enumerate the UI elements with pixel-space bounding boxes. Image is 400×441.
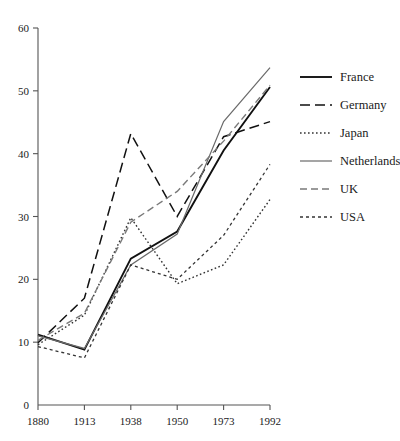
series-line-germany — [38, 122, 270, 343]
legend-label-netherlands: Netherlands — [340, 154, 400, 169]
legend-swatch-usa — [300, 211, 332, 223]
legend-label-usa: USA — [340, 210, 365, 225]
series-line-uk — [38, 85, 270, 340]
x-tick-label: 1950 — [166, 415, 189, 427]
legend-item-germany: Germany — [300, 92, 395, 118]
legend-item-netherlands: Netherlands — [300, 148, 395, 174]
y-tick-label: 50 — [18, 85, 30, 97]
y-tick-label: 0 — [24, 399, 30, 411]
x-axis: 188019131938195019731992 — [27, 405, 281, 427]
series-lines — [38, 68, 270, 358]
legend-label-germany: Germany — [340, 98, 387, 113]
legend-item-usa: USA — [300, 204, 395, 230]
x-tick-label: 1973 — [213, 415, 236, 427]
legend-swatch-uk — [300, 183, 332, 195]
y-tick-label: 20 — [18, 273, 30, 285]
series-line-netherlands — [38, 68, 270, 349]
legend-label-france: France — [340, 70, 374, 85]
legend: France Germany Japan Netherlands UK USA — [300, 64, 395, 232]
legend-label-uk: UK — [340, 182, 358, 197]
y-tick-label: 60 — [18, 22, 30, 34]
x-tick-label: 1992 — [259, 415, 281, 427]
legend-swatch-france — [300, 71, 332, 83]
legend-item-uk: UK — [300, 176, 395, 202]
x-tick-label: 1880 — [27, 415, 50, 427]
x-tick-label: 1913 — [73, 415, 96, 427]
legend-label-japan: Japan — [340, 126, 368, 141]
series-line-usa — [38, 164, 270, 358]
y-axis: 0102030405060 — [18, 22, 38, 411]
legend-swatch-japan — [300, 127, 332, 139]
legend-swatch-netherlands — [300, 155, 332, 167]
y-tick-label: 10 — [18, 336, 30, 348]
legend-item-france: France — [300, 64, 395, 90]
y-tick-label: 30 — [18, 211, 30, 223]
legend-item-japan: Japan — [300, 120, 395, 146]
legend-swatch-germany — [300, 99, 332, 111]
y-tick-label: 40 — [18, 148, 30, 160]
x-tick-label: 1938 — [120, 415, 143, 427]
